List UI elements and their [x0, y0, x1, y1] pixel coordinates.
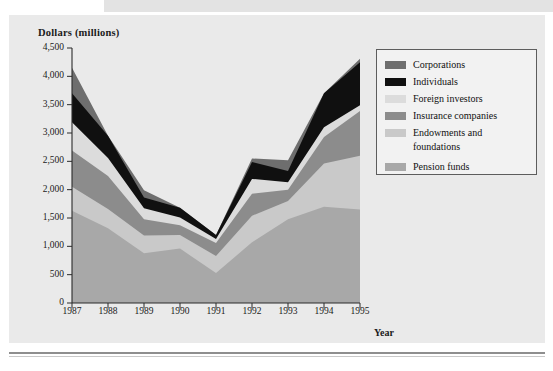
legend-item-label: Foreign investors	[413, 93, 483, 105]
x-tick-label: 1995	[342, 306, 378, 316]
legend-item-label: Endowments and	[413, 127, 482, 139]
x-tick-label: 1991	[198, 306, 234, 316]
legend-item-individuals[interactable]: Individuals	[385, 73, 458, 90]
y-tick-label: 3,500	[30, 99, 64, 109]
page-root: Dollars (millions) Year 05001,0001,5002,…	[0, 0, 553, 371]
legend-swatch-insurance-companies	[385, 112, 406, 120]
y-tick-label: 3,000	[30, 127, 64, 137]
legend-item-corporations[interactable]: Corporations	[385, 56, 465, 73]
legend-swatch-foreign-investors	[385, 95, 406, 103]
legend-swatch-pension-funds	[385, 163, 406, 171]
legend-item-foreign-investors[interactable]: Foreign investors	[385, 90, 483, 107]
legend-item-label: Pension funds	[413, 161, 469, 173]
y-tick-label: 4,000	[30, 70, 64, 80]
y-tick-label: 4,500	[30, 42, 64, 52]
y-tick-label: 2,000	[30, 184, 64, 194]
y-tick-label: 1,500	[30, 212, 64, 222]
footer-rule	[9, 352, 545, 354]
y-tick-label: 1,000	[30, 240, 64, 250]
legend-item-label: Individuals	[413, 76, 458, 88]
x-tick-label: 1989	[126, 306, 162, 316]
x-tick-label: 1993	[270, 306, 306, 316]
legend-item-insurance-companies[interactable]: Insurance companies	[385, 107, 497, 124]
x-tick-label: 1994	[306, 306, 342, 316]
x-tick-label: 1992	[234, 306, 270, 316]
legend-item-pension-funds[interactable]: Pension funds	[385, 158, 469, 175]
y-tick-label: 500	[30, 269, 64, 279]
x-tick-label: 1990	[162, 306, 198, 316]
legend-item-label: Corporations	[413, 59, 465, 71]
x-tick-label: 1987	[54, 306, 90, 316]
chart-areas	[72, 59, 360, 303]
legend-item-label: Insurance companies	[413, 110, 497, 122]
legend-item-label-continued: foundations	[413, 141, 460, 152]
legend-swatch-individuals	[385, 78, 406, 86]
legend-swatch-corporations	[385, 61, 406, 69]
chart-legend: CorporationsIndividualsForeign investors…	[376, 49, 537, 175]
legend-item-endowments-and[interactable]: Endowments and	[385, 124, 482, 141]
y-tick-label: 2,500	[30, 155, 64, 165]
footer-rule-secondary	[9, 356, 545, 357]
x-tick-label: 1988	[90, 306, 126, 316]
legend-swatch-endowments-and-foundations	[385, 129, 406, 137]
